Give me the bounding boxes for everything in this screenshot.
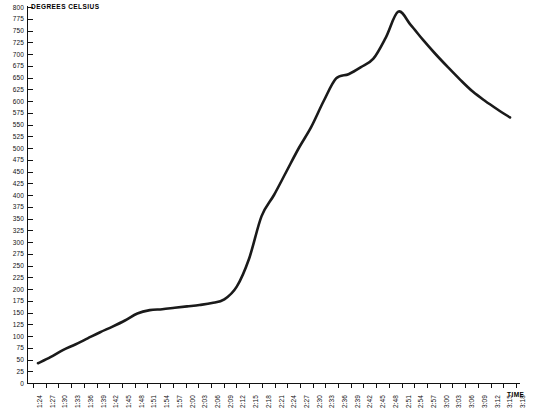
- y-tick-label: 650: [0, 74, 24, 81]
- y-tick-label: 350: [0, 215, 24, 222]
- x-tick-label: 2:12: [239, 395, 246, 408]
- x-tick-label: 1:54: [163, 395, 170, 408]
- x-tick-label: 2:00: [189, 395, 196, 408]
- x-tick-label: 1:36: [87, 395, 94, 408]
- y-tick-label: 400: [0, 192, 24, 199]
- y-tick-label: 225: [0, 274, 24, 281]
- y-tick-label: 725: [0, 39, 24, 46]
- y-tick-label: 0: [0, 380, 24, 387]
- y-tick-label: 250: [0, 262, 24, 269]
- x-tick-label: 2:06: [214, 395, 221, 408]
- x-tick-label: 2:54: [417, 395, 424, 408]
- x-tick-label: 2:18: [265, 395, 272, 408]
- x-tick-label: 3:06: [468, 395, 475, 408]
- x-tick-label: 1:45: [125, 395, 132, 408]
- y-tick-label: 625: [0, 86, 24, 93]
- x-tick-label: 3:15: [506, 395, 513, 408]
- data-line-series: [38, 11, 510, 363]
- y-tick-label: 75: [0, 344, 24, 351]
- x-tick-label: 2:39: [354, 395, 361, 408]
- x-tick-label: 2:42: [366, 395, 373, 408]
- plot-area: [0, 0, 533, 411]
- y-tick-label: 100: [0, 333, 24, 340]
- y-tick-label: 525: [0, 133, 24, 140]
- y-tick-label: 125: [0, 321, 24, 328]
- y-tick-label: 450: [0, 168, 24, 175]
- y-tick-label: 475: [0, 156, 24, 163]
- y-tick-label: 675: [0, 62, 24, 69]
- x-tick-label: 3:12: [494, 395, 501, 408]
- x-tick-label: 1:42: [112, 395, 119, 408]
- x-tick-label: 1:33: [74, 395, 81, 408]
- x-tick-label: 2:21: [278, 395, 285, 408]
- y-tick-label: 200: [0, 286, 24, 293]
- x-tick-label: 2:45: [379, 395, 386, 408]
- y-tick-label: 275: [0, 250, 24, 257]
- y-tick-label: 700: [0, 51, 24, 58]
- x-tick-label: 2:15: [252, 395, 259, 408]
- y-tick-label: 750: [0, 27, 24, 34]
- x-tick-label: 1:27: [49, 395, 56, 408]
- x-tick-label: 1:24: [36, 395, 43, 408]
- x-tick-label: 1:48: [138, 395, 145, 408]
- y-tick-label: 425: [0, 180, 24, 187]
- x-tick-label: 3:18: [519, 395, 526, 408]
- x-tick-label: 2:24: [290, 395, 297, 408]
- y-tick-label: 300: [0, 239, 24, 246]
- y-tick-label: 375: [0, 203, 24, 210]
- x-tick-label: 2:36: [341, 395, 348, 408]
- x-tick-label: 2:51: [405, 395, 412, 408]
- temperature-time-chart: DEGREES CELSIUS TIME 0255075100125150175…: [0, 0, 533, 411]
- x-tick-label: 2:27: [303, 395, 310, 408]
- x-tick-label: 2:03: [201, 395, 208, 408]
- x-tick-label: 1:30: [61, 395, 68, 408]
- x-tick-label: 2:57: [430, 395, 437, 408]
- y-tick-label: 150: [0, 309, 24, 316]
- y-tick-label: 50: [0, 356, 24, 363]
- x-tick-label: 2:30: [316, 395, 323, 408]
- x-tick-label: 3:09: [481, 395, 488, 408]
- x-tick-label: 2:09: [227, 395, 234, 408]
- y-tick-label: 775: [0, 15, 24, 22]
- x-tick-label: 3:03: [455, 395, 462, 408]
- x-tick-label: 3:00: [443, 395, 450, 408]
- x-tick-label: 1:39: [100, 395, 107, 408]
- y-tick-label: 800: [0, 4, 24, 11]
- y-tick-label: 500: [0, 145, 24, 152]
- x-tick-label: 2:48: [392, 395, 399, 408]
- x-tick-label: 1:57: [176, 395, 183, 408]
- y-tick-label: 600: [0, 98, 24, 105]
- y-tick-label: 325: [0, 227, 24, 234]
- y-tick-label: 175: [0, 297, 24, 304]
- x-tick-label: 2:33: [328, 395, 335, 408]
- y-tick-label: 25: [0, 368, 24, 375]
- x-tick-label: 1:51: [150, 395, 157, 408]
- y-tick-label: 550: [0, 121, 24, 128]
- y-tick-label: 575: [0, 109, 24, 116]
